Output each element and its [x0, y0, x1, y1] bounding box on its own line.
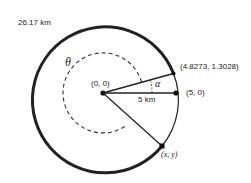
circumference-label: 26.17 km [18, 19, 51, 27]
theta-label: θ [65, 56, 71, 68]
center-label: (0, 0) [91, 80, 110, 88]
point-a-label: (4.8273, 1.3028) [180, 63, 239, 71]
point-b-label: (5, 0) [186, 89, 205, 97]
point-a-dot [172, 72, 176, 76]
point-c-label: (x, y) [161, 151, 177, 159]
center-point [100, 90, 105, 95]
point-c-marker [160, 144, 165, 149]
radius-label: 5 km [138, 96, 155, 104]
point-b-dot [173, 90, 178, 95]
radius-to-point-a [103, 74, 174, 94]
alpha-arc [150, 80, 152, 93]
circle-diagram [0, 0, 251, 183]
alpha-label: α [155, 79, 160, 89]
outer-arc-thin [162, 74, 178, 147]
